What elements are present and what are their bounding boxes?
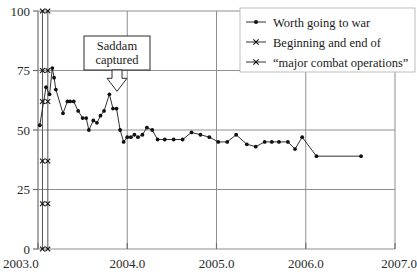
data-point — [129, 135, 133, 139]
data-point — [181, 138, 185, 142]
data-point — [122, 140, 126, 144]
data-point — [81, 116, 85, 120]
data-point — [95, 121, 99, 125]
data-point — [91, 119, 95, 123]
chart-figure: Saddamcaptured 02550751002003.02004.0200… — [0, 0, 417, 277]
data-point — [44, 85, 48, 89]
data-point — [277, 140, 281, 144]
data-point — [163, 138, 167, 142]
data-point — [99, 114, 103, 118]
y-tick-label: 25 — [17, 182, 30, 197]
annotation-line-1: Saddam — [97, 39, 138, 53]
data-point — [141, 133, 145, 137]
y-tick-label: 75 — [17, 63, 30, 78]
data-point — [359, 154, 363, 158]
data-point — [234, 133, 238, 137]
y-tick-label: 50 — [17, 123, 30, 138]
x-tick-label: 2007.0 — [381, 256, 417, 271]
data-point — [199, 133, 203, 137]
data-point — [108, 92, 112, 96]
data-point — [150, 128, 154, 132]
data-point — [254, 145, 258, 149]
data-point — [300, 135, 304, 139]
legend-label: Worth going to war — [273, 16, 371, 30]
data-point — [48, 92, 52, 96]
y-tick-label: 100 — [11, 4, 31, 19]
legend-label: Beginning and end of — [273, 36, 382, 50]
data-point — [84, 116, 88, 120]
x-tick-label: 2005.0 — [199, 256, 235, 271]
chart-canvas: Saddamcaptured 02550751002003.02004.0200… — [0, 0, 417, 277]
data-point — [54, 88, 58, 92]
data-point — [87, 128, 91, 132]
data-point — [72, 100, 76, 104]
data-point — [315, 154, 319, 158]
data-point — [52, 76, 56, 80]
data-point — [118, 128, 122, 132]
data-point — [190, 130, 194, 134]
data-point — [136, 135, 140, 139]
chart-legend: Worth going to warBeginning and end of“m… — [240, 8, 415, 72]
data-point — [50, 66, 54, 70]
data-point — [216, 140, 220, 144]
data-point — [102, 109, 106, 113]
data-point — [293, 147, 297, 151]
data-point — [172, 138, 176, 142]
data-point — [156, 138, 160, 142]
data-point — [225, 140, 229, 144]
data-point — [111, 107, 115, 111]
data-point — [132, 133, 136, 137]
data-point — [263, 140, 267, 144]
data-point — [125, 135, 129, 139]
legend-label: “major combat operations” — [273, 56, 408, 70]
data-point — [207, 135, 211, 139]
data-point — [145, 126, 149, 130]
data-point — [286, 140, 290, 144]
annotation-line-2: captured — [95, 53, 139, 67]
data-point — [38, 123, 42, 127]
data-point — [76, 109, 80, 113]
x-tick-label: 2003.0 — [3, 256, 39, 271]
x-tick-label: 2006.0 — [288, 256, 324, 271]
legend-marker-filled-circle-icon — [254, 20, 258, 24]
data-point — [245, 142, 249, 146]
data-point — [115, 107, 119, 111]
y-tick-label: 0 — [24, 242, 31, 257]
data-point — [270, 140, 274, 144]
x-tick-label: 2004.0 — [109, 256, 145, 271]
data-point — [61, 111, 65, 115]
data-point — [68, 100, 72, 104]
